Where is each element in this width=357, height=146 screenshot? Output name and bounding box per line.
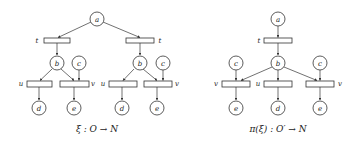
transition-u: u bbox=[19, 80, 52, 88]
svg-text:v: v bbox=[91, 80, 95, 88]
svg-text:v: v bbox=[338, 80, 342, 88]
place-b: b bbox=[50, 56, 64, 70]
svg-text:e: e bbox=[234, 105, 238, 113]
transition-u: u bbox=[256, 80, 292, 88]
place-c: c bbox=[72, 56, 86, 70]
transition-v: v bbox=[60, 80, 95, 88]
svg-text:v: v bbox=[214, 80, 218, 88]
svg-text:d: d bbox=[120, 105, 125, 113]
svg-text:t: t bbox=[36, 37, 39, 45]
svg-text:b: b bbox=[276, 60, 281, 68]
place-b: b bbox=[133, 56, 147, 70]
place-a: a bbox=[271, 12, 285, 26]
place-e: e bbox=[229, 101, 243, 115]
place-d: d bbox=[32, 101, 46, 115]
svg-text:u: u bbox=[256, 80, 261, 88]
svg-text:c: c bbox=[318, 60, 322, 68]
right-net: a c b c e d e t v u v π(ξ) : O′ → N bbox=[214, 12, 342, 134]
place-d: d bbox=[115, 101, 129, 115]
svg-text:d: d bbox=[37, 105, 42, 113]
svg-text:a: a bbox=[276, 16, 280, 24]
transition-t: t bbox=[258, 37, 292, 45]
svg-text:t: t bbox=[159, 37, 162, 45]
svg-text:c: c bbox=[234, 60, 238, 68]
transition-t: t bbox=[36, 37, 70, 45]
place-c: c bbox=[156, 56, 170, 70]
left-caption: ξ : O → N bbox=[76, 124, 119, 134]
svg-text:d: d bbox=[276, 105, 281, 113]
svg-text:b: b bbox=[138, 60, 143, 68]
place-d: d bbox=[271, 101, 285, 115]
transition-v: v bbox=[306, 80, 342, 88]
place-e: e bbox=[313, 101, 327, 115]
svg-text:c: c bbox=[77, 60, 81, 68]
svg-text:e: e bbox=[72, 105, 76, 113]
transition-v: v bbox=[144, 80, 179, 88]
svg-text:v: v bbox=[175, 80, 179, 88]
place-c: c bbox=[313, 56, 327, 70]
place-a: a bbox=[90, 12, 104, 26]
right-caption: π(ξ) : O′ → N bbox=[248, 124, 307, 134]
transition-t: t bbox=[126, 37, 162, 45]
occurrence-net-diagram: a b c d e b c d e t t u v u v ξ : O → N … bbox=[0, 0, 357, 146]
transition-v: v bbox=[214, 80, 250, 88]
place-e: e bbox=[150, 101, 164, 115]
svg-text:t: t bbox=[258, 37, 261, 45]
svg-text:e: e bbox=[318, 105, 322, 113]
svg-text:b: b bbox=[55, 60, 60, 68]
svg-text:u: u bbox=[101, 80, 106, 88]
transition-u: u bbox=[101, 80, 137, 88]
svg-text:a: a bbox=[95, 16, 99, 24]
svg-text:e: e bbox=[155, 105, 159, 113]
place-e: e bbox=[67, 101, 81, 115]
left-net: a b c d e b c d e t t u v u v ξ : O → N bbox=[19, 12, 179, 134]
place-b: b bbox=[271, 56, 285, 70]
svg-text:c: c bbox=[161, 60, 165, 68]
place-c: c bbox=[229, 56, 243, 70]
svg-text:u: u bbox=[19, 80, 24, 88]
